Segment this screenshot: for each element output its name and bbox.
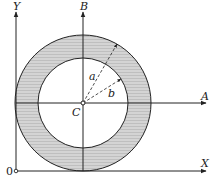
b-axis-label: B [79, 0, 88, 13]
outer-radius-label: a [89, 70, 96, 83]
x-axis-label: X [200, 157, 210, 170]
origin-label: 0 [6, 165, 13, 178]
annulus-diagram: Y B A X 0 C a b [0, 0, 212, 178]
origin-point [14, 169, 18, 173]
center-point [81, 101, 85, 105]
diagram-svg: Y B A X 0 C a b [0, 0, 212, 178]
center-label: C [72, 106, 81, 119]
y-axis-label: Y [13, 0, 22, 13]
inner-radius-label: b [108, 87, 115, 100]
a-axis-label: A [200, 90, 209, 103]
